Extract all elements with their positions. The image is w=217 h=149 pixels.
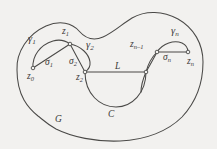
label-zn: zn (187, 57, 194, 67)
label-sigma-2: σ2 (69, 57, 77, 67)
label-gamma-1: γ1 (28, 34, 36, 46)
label-sigma-n: σn (163, 53, 171, 63)
vertex-zn-minus-1 (155, 50, 159, 54)
vertex-z0 (31, 66, 35, 70)
vertex-zn (186, 50, 190, 54)
label-sigma-1: σ1 (45, 58, 53, 68)
label-G: G (55, 115, 62, 125)
gamma-n-arc (157, 42, 188, 52)
C-arc (85, 72, 146, 107)
vertex-L-endpoint (144, 70, 148, 74)
label-C: C (108, 110, 114, 120)
figure-container: γ1 z1 γ2 σ1 σ2 z0 z2 L C zn–1 γn σn zn G (0, 0, 217, 149)
label-z1: z1 (62, 27, 69, 37)
label-zn-minus-1: zn–1 (130, 40, 143, 50)
label-gamma-n: γn (171, 26, 179, 38)
label-L: L (115, 62, 120, 72)
label-z2: z2 (76, 73, 83, 83)
label-z0: z0 (27, 72, 34, 82)
vertex-z2 (83, 70, 87, 74)
vertex-z1 (68, 42, 72, 46)
lens-curve-right (146, 52, 157, 72)
label-gamma-2: γ2 (86, 40, 94, 52)
